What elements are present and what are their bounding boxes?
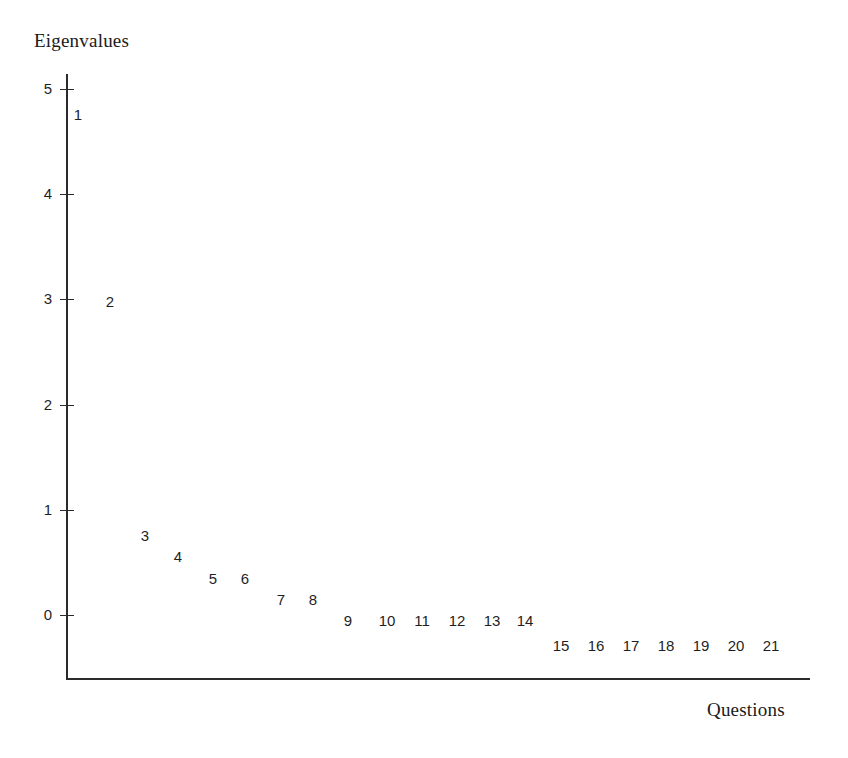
data-point-label: 21 <box>763 637 780 654</box>
data-point-label: 20 <box>728 637 745 654</box>
data-point-label: 18 <box>658 637 675 654</box>
y-axis-tick-label: 1 <box>30 501 52 518</box>
scree-plot-figure: Eigenvalues 543210 123456789101112131415… <box>0 0 848 758</box>
y-axis-tick-mark <box>60 299 74 300</box>
scree-plot-page: Eigenvalues 543210 123456789101112131415… <box>0 0 848 758</box>
data-point-label: 13 <box>484 612 501 629</box>
data-point-label: 4 <box>174 548 182 565</box>
y-axis-tick-label: 0 <box>30 606 52 623</box>
y-axis-title: Eigenvalues <box>34 30 129 52</box>
data-point-label: 16 <box>588 637 605 654</box>
y-axis-line <box>66 74 68 680</box>
x-axis-line <box>66 678 810 680</box>
data-point-label: 5 <box>209 570 217 587</box>
data-point-label: 8 <box>309 591 317 608</box>
data-point-label: 9 <box>344 612 352 629</box>
y-axis-tick-mark <box>60 194 74 195</box>
x-axis-title: Questions <box>707 699 785 721</box>
y-axis-tick-mark <box>60 510 74 511</box>
data-point-label: 17 <box>623 637 640 654</box>
data-point-label: 11 <box>414 612 430 629</box>
data-point-label: 3 <box>141 527 149 544</box>
y-axis-tick-label: 4 <box>30 185 52 202</box>
data-point-label: 10 <box>379 612 396 629</box>
y-axis-tick-mark <box>60 615 74 616</box>
y-axis-tick-mark <box>60 89 74 90</box>
data-point-label: 14 <box>517 612 534 629</box>
y-axis-tick-label: 2 <box>30 396 52 413</box>
data-point-label: 15 <box>553 637 570 654</box>
data-point-label: 2 <box>106 293 114 310</box>
data-point-label: 12 <box>449 612 466 629</box>
data-point-label: 19 <box>693 637 710 654</box>
y-axis-tick-label: 5 <box>30 80 52 97</box>
y-axis-tick-label: 3 <box>30 290 52 307</box>
data-point-label: 1 <box>74 106 82 123</box>
y-axis-tick-mark <box>60 405 74 406</box>
data-point-label: 6 <box>241 570 249 587</box>
data-point-label: 7 <box>277 591 285 608</box>
